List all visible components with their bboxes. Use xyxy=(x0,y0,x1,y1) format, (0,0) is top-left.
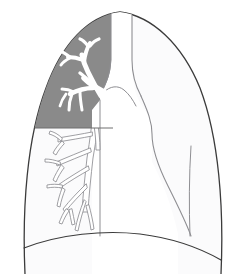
lung-diagram-figure xyxy=(0,0,246,274)
lower-branch-3-tip-a xyxy=(47,184,62,188)
lung-illustration-svg xyxy=(0,0,246,274)
